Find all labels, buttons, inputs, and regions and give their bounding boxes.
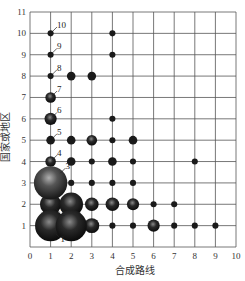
data-bubble — [127, 198, 139, 210]
annotation-label: 4 — [57, 148, 62, 158]
data-bubble — [85, 197, 99, 211]
x-tick-label: 3 — [90, 251, 95, 261]
x-axis-label: 合成路线 — [115, 264, 155, 276]
data-bubble — [109, 116, 115, 122]
data-bubble — [67, 72, 76, 81]
data-bubble — [109, 52, 115, 58]
y-tick-label: 11 — [17, 7, 26, 17]
data-bubble — [106, 197, 120, 211]
data-bubble — [171, 223, 177, 229]
annotation-label: 10 — [57, 20, 67, 30]
data-bubble — [108, 157, 117, 166]
data-bubble — [192, 158, 198, 164]
data-bubble — [67, 136, 76, 145]
x-tick-label: 5 — [131, 251, 136, 261]
y-tick-label: 7 — [22, 92, 27, 102]
y-tick-label: 3 — [22, 178, 27, 188]
data-bubble — [151, 201, 157, 207]
data-bubble — [109, 180, 115, 186]
data-bubble — [171, 201, 177, 207]
annotation-label: 9 — [57, 41, 62, 51]
y-axis-label: 国家或地区 — [0, 112, 11, 162]
data-bubble — [130, 180, 136, 186]
data-bubble — [109, 30, 115, 36]
y-tick-label: 5 — [22, 135, 27, 145]
x-tick-label: 10 — [232, 251, 242, 261]
data-bubble — [109, 223, 115, 229]
annotation-label: 6 — [57, 105, 62, 115]
data-bubble — [129, 136, 138, 145]
data-bubble — [89, 180, 95, 186]
y-tick-label: 1 — [22, 221, 27, 231]
x-tick-label: 0 — [28, 251, 33, 261]
annotation-label: 7 — [57, 84, 62, 94]
data-bubble — [109, 137, 115, 143]
y-tick-label: 10 — [17, 28, 27, 38]
data-bubble — [130, 223, 136, 229]
data-bubble — [130, 158, 136, 164]
x-tick-label: 7 — [172, 251, 177, 261]
data-bubble — [192, 223, 198, 229]
y-tick-label: 9 — [22, 50, 27, 60]
y-tick-label: 8 — [22, 71, 27, 81]
data-bubble — [87, 135, 98, 146]
annotation-label: 1 — [61, 234, 66, 244]
y-tick-label: 2 — [22, 199, 27, 209]
y-tick-label: 6 — [22, 114, 27, 124]
x-tick-label: 1 — [48, 251, 53, 261]
y-tick-label: 4 — [22, 157, 27, 167]
x-tick-label: 2 — [69, 251, 74, 261]
x-tick-label: 6 — [151, 251, 156, 261]
x-tick-label: 9 — [213, 251, 218, 261]
annotation-label: 5 — [57, 127, 62, 137]
x-tick-label: 4 — [110, 251, 115, 261]
data-bubble — [89, 158, 95, 164]
data-bubble — [148, 220, 160, 232]
data-bubble — [87, 72, 96, 81]
x-axis-ticks: 012345678910 — [28, 251, 241, 261]
bubble-chart: 12345678910 012345678910 1234567891011 合… — [0, 0, 245, 281]
annotation-label: 8 — [57, 63, 62, 73]
x-tick-label: 8 — [193, 251, 198, 261]
data-bubble — [68, 180, 74, 186]
y-axis-ticks: 1234567891011 — [17, 7, 27, 231]
annotation-label: 3 — [65, 161, 70, 171]
data-bubble — [212, 223, 218, 229]
annotation-label: 2 — [61, 208, 66, 218]
